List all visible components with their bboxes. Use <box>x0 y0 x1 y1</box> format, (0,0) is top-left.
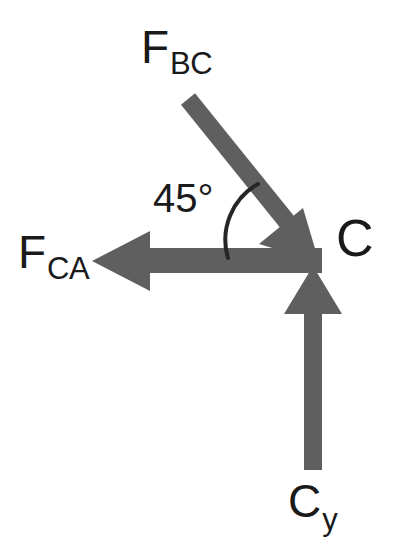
label-cy-base: C <box>288 475 321 527</box>
label-cy-subscript: y <box>322 502 338 537</box>
cy-shaft <box>304 290 322 470</box>
label-fca-base: F <box>18 226 46 278</box>
label-fca-subscript: CA <box>47 251 89 286</box>
force-diagram-canvas: FBC 45° FCA C Cy <box>0 0 409 550</box>
label-fbc-base: F <box>141 21 169 73</box>
angle-arc <box>225 184 258 258</box>
label-force-fca: FCA <box>18 229 88 275</box>
label-fbc-subscript: BC <box>170 46 212 81</box>
label-force-cy: Cy <box>288 478 337 524</box>
cy-arrowhead <box>284 266 342 314</box>
fca-arrowhead <box>92 231 150 291</box>
label-joint-c: C <box>336 212 374 264</box>
label-angle-45: 45° <box>153 178 214 218</box>
label-force-fbc: FBC <box>141 24 211 70</box>
force-arrow-cy <box>284 266 342 470</box>
